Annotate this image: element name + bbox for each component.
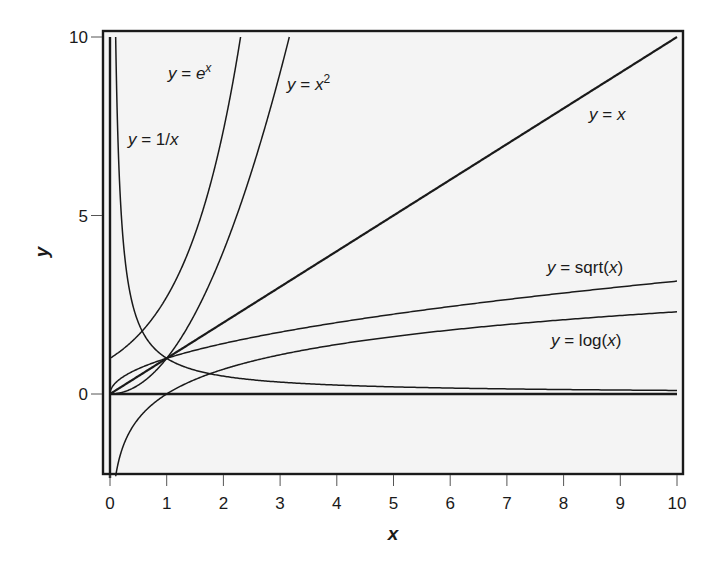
x-axis-title: x bbox=[387, 523, 400, 544]
x-tick-label: 10 bbox=[668, 494, 687, 513]
y-tick-label: 10 bbox=[69, 28, 88, 47]
x-tick-label: 4 bbox=[332, 494, 341, 513]
y-axis-ticks: 0510 bbox=[69, 28, 102, 404]
x-tick-label: 9 bbox=[616, 494, 625, 513]
x-tick-label: 7 bbox=[502, 494, 511, 513]
x-tick-label: 6 bbox=[445, 494, 454, 513]
label-y-equals-sqrt-x: y = sqrt(x) bbox=[546, 258, 623, 277]
x-axis-ticks: 012345678910 bbox=[105, 475, 686, 513]
y-tick-label: 0 bbox=[79, 385, 88, 404]
x-tick-label: 2 bbox=[219, 494, 228, 513]
label-y-equals-inverse-x: y = 1/x bbox=[127, 130, 179, 149]
x-tick-label: 0 bbox=[105, 494, 114, 513]
x-tick-label: 5 bbox=[389, 494, 398, 513]
y-tick-label: 5 bbox=[79, 207, 88, 226]
label-y-equals-x: y = x bbox=[588, 105, 626, 124]
function-plot: 012345678910 0510 x y y = ex y = x2 y = … bbox=[0, 0, 720, 580]
plot-area-background bbox=[103, 31, 683, 474]
y-axis-title: y bbox=[31, 245, 52, 258]
x-tick-label: 3 bbox=[275, 494, 284, 513]
chart-container: 012345678910 0510 x y y = ex y = x2 y = … bbox=[0, 0, 720, 580]
x-tick-label: 8 bbox=[559, 494, 568, 513]
x-tick-label: 1 bbox=[162, 494, 171, 513]
label-y-equals-log-x: y = log(x) bbox=[550, 331, 621, 350]
